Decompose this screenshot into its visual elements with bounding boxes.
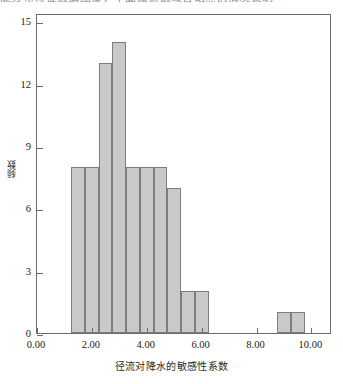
- bars-layer: [37, 15, 330, 333]
- histogram-bar: [71, 167, 85, 333]
- y-axis-title: 频数: [7, 160, 16, 178]
- y-axis-tick-label: 6: [26, 204, 31, 215]
- x-axis-tick-label: 0.00: [27, 340, 45, 351]
- x-axis-tick: [92, 328, 93, 333]
- x-axis-tick-label: 8.00: [246, 340, 264, 351]
- y-axis-tick-label: 15: [21, 17, 32, 28]
- y-axis-tick: [37, 273, 43, 274]
- histogram-bar: [181, 291, 195, 333]
- histogram-bar: [126, 167, 140, 333]
- histogram-figure: 03691215 0.002.004.006.008.0010.00 频数 径流…: [0, 0, 343, 384]
- plot-area: [36, 14, 331, 334]
- histogram-bar: [167, 188, 181, 333]
- histogram-bar: [291, 312, 305, 333]
- x-axis-tick: [257, 328, 258, 333]
- histogram-bar: [140, 167, 154, 333]
- x-axis-tick-label: 4.00: [137, 340, 155, 351]
- x-axis-tick-label: 2.00: [82, 340, 100, 351]
- y-axis-tick-label: 12: [21, 79, 32, 90]
- x-axis-tick: [311, 328, 312, 333]
- histogram-bar: [277, 312, 291, 333]
- y-axis-tick-label: 3: [26, 266, 31, 277]
- x-axis-tick-label: 10.00: [299, 340, 323, 351]
- y-axis-tick-label: 9: [26, 142, 31, 153]
- y-axis-tick-label: 0: [26, 329, 31, 340]
- histogram-bar: [85, 167, 99, 333]
- y-axis-tick: [37, 86, 43, 87]
- x-axis-tick: [147, 328, 148, 333]
- histogram-bar: [112, 42, 126, 333]
- y-axis-tick: [37, 335, 43, 336]
- y-axis-tick: [37, 210, 43, 211]
- x-axis-tick: [37, 328, 38, 333]
- y-axis-tick: [37, 148, 43, 149]
- histogram-bar: [195, 291, 209, 333]
- histogram-bar: [99, 63, 113, 333]
- x-axis-tick-label: 6.00: [191, 340, 209, 351]
- y-axis-tick: [37, 23, 43, 24]
- x-axis-tick: [202, 328, 203, 333]
- histogram-bar: [154, 167, 168, 333]
- x-axis-title: 径流对降水的敏感性系数: [0, 362, 343, 372]
